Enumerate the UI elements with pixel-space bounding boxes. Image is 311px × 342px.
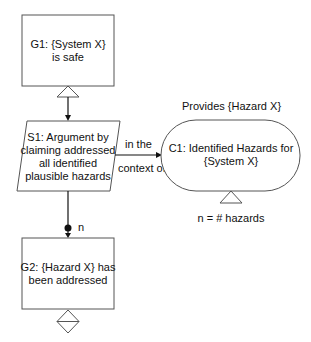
strategy-s1-line-3: all identified bbox=[39, 157, 97, 169]
multiplicity-label: n bbox=[78, 221, 84, 233]
goal-g1-line-1: G1: {System X} bbox=[30, 38, 106, 50]
strategy-s1-line-4: plausible hazards bbox=[25, 170, 111, 182]
goal-g2-line-2: been addressed bbox=[29, 274, 108, 286]
context-c1-line-2: {System X} bbox=[204, 155, 259, 167]
edge-s1-to-c1: in the context of bbox=[115, 138, 167, 174]
context-c1[interactable]: C1: Identified Hazards for {System X} bbox=[161, 120, 300, 191]
strategy-s1[interactable]: S1: Argument by claiming addressed all i… bbox=[17, 121, 120, 191]
goal-g2[interactable]: G2: {Hazard X} has been addressed bbox=[21, 238, 116, 309]
goal-g2-line-1: G2: {Hazard X} has bbox=[21, 261, 116, 273]
c1-multiplicity-label: n = # hazards bbox=[198, 212, 265, 224]
uninstantiated-triangle-icon bbox=[220, 191, 242, 203]
c1-provides-label: Provides {Hazard X} bbox=[182, 100, 281, 112]
arrowhead-icon bbox=[65, 233, 71, 238]
gsn-diagram: G1: {System X} is safe S1: Argument by c… bbox=[0, 0, 311, 342]
edge-label-in-the: in the bbox=[125, 138, 152, 150]
goal-g1[interactable]: G1: {System X} is safe bbox=[22, 15, 114, 86]
undeveloped-diamond-icon bbox=[57, 310, 79, 333]
goal-g1-line-2: is safe bbox=[52, 51, 84, 63]
edge-g1-to-s1 bbox=[65, 97, 71, 121]
multiplicity-dot-icon bbox=[65, 225, 72, 232]
context-c1-line-1: C1: Identified Hazards for bbox=[169, 142, 294, 154]
strategy-s1-line-1: S1: Argument by bbox=[27, 131, 109, 143]
strategy-s1-line-2: claiming addressed bbox=[21, 144, 116, 156]
edge-s1-to-g2: n bbox=[65, 191, 85, 238]
uninstantiated-triangle-icon bbox=[57, 86, 79, 97]
arrowhead-icon bbox=[65, 115, 71, 121]
edge-label-context-of: context of bbox=[118, 162, 167, 174]
